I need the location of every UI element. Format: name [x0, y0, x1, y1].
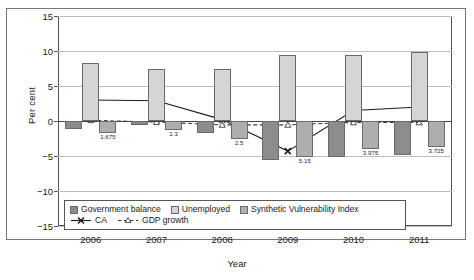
y-tick-label: −15 — [37, 221, 53, 232]
y-tick-mark — [54, 156, 58, 157]
legend-item-label: Synthetic Vulnerability Index — [251, 204, 359, 215]
bar — [99, 121, 116, 133]
legend-item: CA — [70, 215, 107, 226]
bar-data-label: 1.3 — [169, 131, 178, 137]
x-tick-label: 2007 — [146, 234, 167, 245]
bar-data-label: 1.675 — [100, 134, 116, 140]
bar — [82, 63, 99, 121]
legend-swatch — [240, 206, 248, 214]
line-marker-triangle — [285, 122, 291, 127]
x-tick-label: 2009 — [277, 234, 298, 245]
gridline — [58, 191, 452, 192]
legend-item: Government balance — [70, 204, 161, 215]
bar — [197, 121, 214, 133]
bar — [231, 121, 248, 139]
legend-line-key — [70, 216, 92, 225]
y-tick-mark — [54, 226, 58, 227]
bar — [394, 121, 411, 155]
bar — [279, 55, 296, 121]
bar-data-label: 3.975 — [363, 150, 379, 156]
x-axis-title: Year — [0, 258, 474, 269]
y-axis-title: Per cent — [26, 66, 37, 146]
bar — [262, 121, 279, 160]
bar — [411, 52, 428, 121]
bar-data-label: 5.15 — [299, 158, 311, 164]
bar — [296, 121, 313, 157]
bar — [131, 121, 148, 125]
y-tick-label: 10 — [42, 46, 53, 57]
gridline — [58, 86, 452, 87]
legend-line-key — [117, 216, 139, 225]
bar — [345, 55, 362, 122]
y-tick-label: 0 — [48, 116, 53, 127]
gridline — [58, 51, 452, 52]
chart-figure: Per cent Year 151050−5−10−1520061.675200… — [0, 0, 474, 280]
legend-swatch — [171, 206, 179, 214]
legend-item: Synthetic Vulnerability Index — [240, 204, 359, 215]
legend-item-label: GDP growth — [142, 215, 189, 226]
y-tick-mark — [54, 191, 58, 192]
legend-item-label: CA — [95, 215, 107, 226]
legend-row-lines: CAGDP growth — [70, 215, 400, 226]
bar — [65, 121, 82, 129]
gridline — [58, 16, 452, 17]
legend-item: Unemployed — [171, 204, 230, 215]
y-tick-label: 15 — [42, 11, 53, 22]
bar-data-label: 2.5 — [235, 140, 244, 146]
legend-row-bars: Government balanceUnemployedSynthetic Vu… — [70, 204, 400, 215]
bar — [165, 121, 182, 130]
y-tick-mark — [54, 121, 58, 122]
bar — [428, 121, 445, 147]
bar — [148, 69, 165, 122]
y-tick-label: 5 — [48, 81, 53, 92]
bar-data-label: 3.725 — [428, 148, 444, 154]
y-tick-mark — [54, 86, 58, 87]
y-tick-label: −5 — [42, 151, 53, 162]
legend-swatch — [70, 206, 78, 214]
legend-item-label: Government balance — [81, 204, 161, 215]
x-tick-label: 2008 — [212, 234, 233, 245]
y-tick-mark — [54, 51, 58, 52]
x-tick-label: 2006 — [80, 234, 101, 245]
legend-item: GDP growth — [117, 215, 189, 226]
legend-item-label: Unemployed — [182, 204, 230, 215]
y-tick-label: −10 — [37, 186, 53, 197]
bar — [214, 69, 231, 122]
gridline — [58, 156, 452, 157]
plot-area: 151050−5−10−1520061.67520071.320082.5200… — [58, 16, 452, 226]
x-tick-label: 2011 — [409, 234, 429, 245]
line-marker-x — [285, 148, 291, 154]
bar — [328, 121, 345, 157]
chart-legend: Government balanceUnemployedSynthetic Vu… — [64, 200, 406, 230]
y-tick-mark — [54, 16, 58, 17]
x-tick-label: 2010 — [343, 234, 364, 245]
bar — [362, 121, 379, 149]
